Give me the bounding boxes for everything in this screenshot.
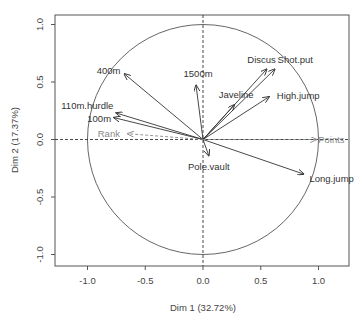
arrow-line	[196, 85, 203, 139]
pca-correlation-circle-chart: -1.0-0.50.00.51.0 -1.0-0.50.00.51.0 Dim …	[0, 0, 360, 321]
variable-label: Pole.vault	[188, 161, 230, 172]
y-tick-label: 0.0	[34, 133, 45, 146]
x-tick-label: 1.0	[312, 275, 325, 286]
arrow-points: Points	[203, 134, 345, 145]
x-axis: -1.0-0.50.00.51.0	[79, 266, 325, 286]
arrow-pole-vault: Pole.vault	[188, 140, 230, 172]
arrow-rank: Rank	[98, 128, 203, 140]
variable-label: 400m	[97, 65, 121, 76]
y-tick-label: 1.0	[34, 18, 45, 31]
y-axis-title: Dim 2 (17.37%)	[9, 107, 20, 173]
variable-label: 100m	[87, 113, 111, 124]
x-tick-label: -1.0	[79, 275, 95, 286]
variable-label: Long.jump	[309, 173, 353, 184]
y-axis: -1.0-0.50.00.51.0	[34, 18, 55, 263]
variable-label: Shot.put	[278, 54, 314, 65]
y-tick-label: -0.5	[34, 189, 45, 205]
y-tick-label: 0.5	[34, 75, 45, 88]
x-tick-label: 0.0	[196, 275, 209, 286]
plot-frame	[55, 15, 349, 266]
arrow-line	[203, 140, 209, 156]
variable-label: Points	[318, 134, 345, 145]
x-tick-label: -0.5	[137, 275, 153, 286]
x-axis-title: Dim 1 (32.72%)	[170, 302, 236, 313]
variable-label: Rank	[98, 128, 120, 139]
variable-label: Discus	[247, 54, 276, 65]
variable-label: Javeline	[219, 89, 254, 100]
arrow-1500m: 1500m	[184, 68, 213, 139]
arrow-line	[203, 69, 275, 139]
x-tick-label: 0.5	[254, 275, 267, 286]
variable-label: 110m.hurdle	[61, 100, 113, 111]
variable-label: 1500m	[184, 68, 213, 79]
y-tick-label: -1.0	[34, 246, 45, 262]
arrow-110m-hurdle: 110m.hurdle	[61, 100, 203, 139]
variable-label: High.jump	[277, 90, 320, 101]
arrow-line	[116, 113, 203, 139]
variable-arrows: 100mLong.jumpShot.putHigh.jump400m110m.h…	[61, 54, 354, 184]
